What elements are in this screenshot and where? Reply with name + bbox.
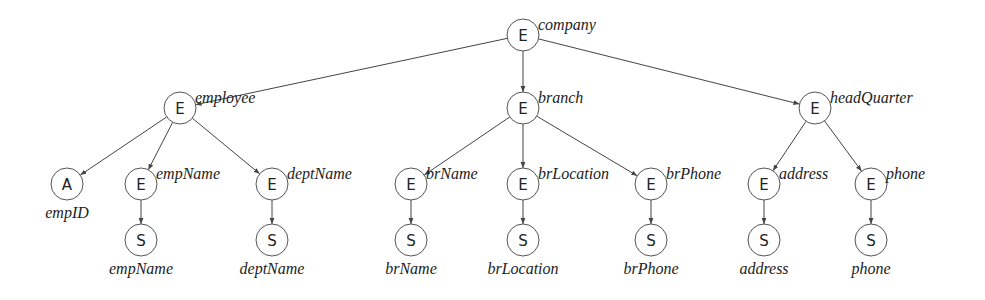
node-empName: EempName [125,165,220,200]
node-empID: AempID [45,168,89,222]
node-brPhone: EbrPhone [635,165,721,200]
node-branch: Ebranch [507,89,583,124]
edge-employee-to-empID [80,117,166,175]
node-type-letter: E [518,100,527,118]
node-label: address [779,165,828,182]
node-label: empName [109,260,173,278]
node-deptName_s: SdeptName [240,224,305,278]
node-label: deptName [240,260,305,278]
node-label: branch [538,89,583,106]
node-type-letter: S [759,232,769,250]
node-brName: EbrName [395,165,478,200]
node-label: address [739,260,788,277]
node-phone_s: Sphone [850,224,890,278]
node-label: brPhone [666,165,721,182]
node-employee: Eemployee [164,89,255,124]
node-brName_s: SbrName [385,224,437,277]
node-brLocation: EbrLocation [507,165,609,200]
node-label: brName [426,165,478,182]
node-brLocation_s: SbrLocation [487,224,558,277]
node-type-letter: S [136,232,146,250]
node-label: phone [885,165,925,183]
node-label: brName [385,260,437,277]
node-label: headQuarter [830,89,913,106]
node-type-letter: S [267,232,277,250]
edges-layer [80,38,871,224]
node-type-letter: S [518,232,528,250]
node-type-letter: E [866,176,875,194]
node-type-letter: E [406,176,415,194]
node-empName_s: SempName [109,224,173,278]
node-label: empName [156,165,220,183]
node-type-letter: S [646,232,656,250]
node-type-letter: E [518,176,527,194]
node-deptName: EdeptName [256,165,352,200]
node-type-letter: S [406,232,416,250]
node-label: phone [850,260,890,278]
node-type-letter: A [62,176,73,194]
node-address: Eaddress [748,165,828,200]
node-type-letter: E [518,27,527,45]
node-brPhone_s: SbrPhone [623,224,678,277]
node-type-letter: E [136,176,145,194]
node-type-letter: E [646,176,655,194]
node-label: brLocation [487,260,558,277]
node-type-letter: E [759,176,768,194]
node-type-letter: S [866,232,876,250]
schema-tree-diagram: EcompanyEemployeeEbranchEheadQuarterAemp… [0,0,985,300]
node-label: deptName [287,165,352,183]
edge-headQuarter-to-phone [824,121,861,171]
node-label: brPhone [623,260,678,277]
node-label: empID [45,204,89,222]
node-type-letter: E [810,100,819,118]
node-label: company [538,16,597,34]
node-type-letter: E [175,100,184,118]
node-label: employee [195,89,255,107]
node-type-letter: E [267,176,276,194]
edge-headQuarter-to-address [773,121,806,170]
node-label: brLocation [538,165,609,182]
edge-employee-to-empName [148,122,172,170]
nodes-layer: EcompanyEemployeeEbranchEheadQuarterAemp… [45,16,925,278]
node-headQuarter: EheadQuarter [799,89,913,124]
node-company: Ecompany [507,16,597,51]
node-address_s: Saddress [739,224,788,277]
node-phone: Ephone [855,165,925,200]
